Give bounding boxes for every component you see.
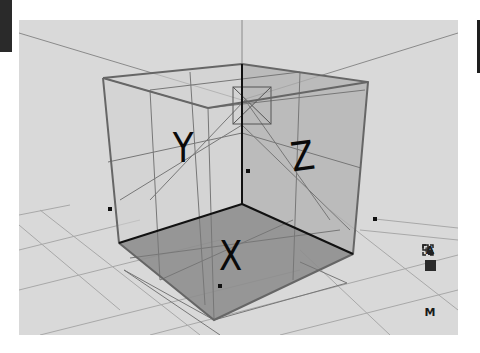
3d-viewport[interactable]: Y Z X A M <box>19 20 458 335</box>
focus-frame-icon[interactable] <box>424 290 437 303</box>
handle-center <box>246 169 250 173</box>
handle-right <box>373 217 377 221</box>
scene-canvas[interactable] <box>19 20 458 335</box>
linked-boxes-icon[interactable] <box>424 274 437 287</box>
solid-square-icon[interactable] <box>425 260 436 271</box>
handle-left <box>108 207 112 211</box>
axis-label-x: X <box>219 236 242 276</box>
viewport-toolbar: A M <box>422 244 438 319</box>
handle-front <box>218 284 222 288</box>
left-panel-edge <box>0 0 12 52</box>
axis-label-y: Y <box>173 128 194 168</box>
material-m-icon[interactable]: M <box>424 306 437 319</box>
